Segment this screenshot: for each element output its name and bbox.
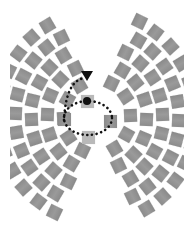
arrowhead-icon [81,71,93,81]
diagram-canvas [0,0,196,229]
dotted-arrow-path [64,78,85,120]
path-overlay [0,0,196,229]
dotted-orbit-ellipse [64,101,112,135]
position-dot [83,97,91,105]
